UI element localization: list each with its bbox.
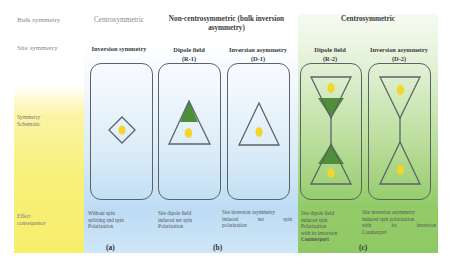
effect-text-a: Without spin splitting and spin Polariza…: [88, 210, 150, 230]
effect-text-r1: Site dipole field induced net spin Polar…: [158, 210, 220, 230]
inversion-asym-triangle-d1-icon: [239, 103, 279, 145]
dipole-triangle-r1-icon: [169, 101, 210, 144]
effect-text-d1: Site inversion asymmetry induced net spi…: [222, 209, 292, 229]
effect-text-d2: Site inversion asymmetry induced spin po…: [362, 209, 436, 235]
diamond-site-icon: [109, 117, 135, 143]
panel-label-c: (c): [359, 243, 367, 252]
panel-label-a: (a): [106, 243, 115, 252]
inversion-asym-hourglass-d2-icon: [380, 77, 420, 184]
effect-text-r2: Site dipole field induced spin Polarizat…: [301, 210, 361, 243]
panel-label-b: (b): [213, 243, 222, 252]
dipole-hourglass-r2-icon: [310, 77, 351, 184]
